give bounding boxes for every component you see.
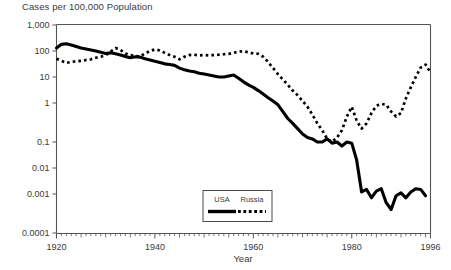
y-axis-tick-label: 0.1 bbox=[37, 137, 50, 147]
y-axis-tick-label: 1 bbox=[44, 98, 49, 108]
x-axis-label: Year bbox=[233, 253, 252, 264]
series-line-usa bbox=[57, 44, 426, 210]
x-axis-tick-label: 1960 bbox=[243, 242, 263, 252]
y-axis-tick-label: 0.001 bbox=[27, 189, 50, 199]
x-axis-ticks: 19201940196019801996 bbox=[46, 234, 440, 252]
y-axis-tick-label: 0.0001 bbox=[22, 228, 50, 238]
y-axis-tick-label: 10 bbox=[39, 72, 49, 82]
legend-label-usa: USA bbox=[214, 195, 229, 204]
legend-label-russia: Russia bbox=[241, 195, 265, 204]
y-axis-ticks: 1,0001001010.10.010.0010.0001 bbox=[22, 20, 57, 238]
series-line-russia bbox=[57, 48, 431, 142]
x-axis-tick-label: 1996 bbox=[420, 242, 440, 252]
data-series-layer bbox=[57, 44, 431, 210]
y-axis-tick-label: 1,000 bbox=[27, 20, 50, 30]
y-axis-tick-label: 100 bbox=[34, 46, 49, 56]
y-axis-tick-label: 0.01 bbox=[32, 163, 50, 173]
x-axis-tick-label: 1940 bbox=[145, 242, 165, 252]
chart-legend[interactable]: USARussia bbox=[203, 191, 272, 222]
chart-container: Cases per 100,000 Population 1,000100101… bbox=[0, 0, 451, 270]
x-axis-tick-label: 1920 bbox=[46, 242, 66, 252]
chart-plot-area: 1,0001001010.10.010.0010.0001 1920194019… bbox=[0, 0, 451, 270]
x-axis-tick-label: 1980 bbox=[342, 242, 362, 252]
page-footer-text bbox=[0, 264, 451, 270]
